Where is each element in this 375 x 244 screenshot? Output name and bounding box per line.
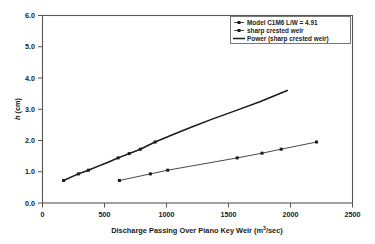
chart-legend: Model C1M6 L/W = 4.91 sharp crested weir… xyxy=(231,17,351,44)
legend-entry-power-trend[interactable]: Power (sharp crested weir) xyxy=(233,35,329,43)
y-tick-label: 3.0 xyxy=(25,105,35,114)
y-tick-label: 6.0 xyxy=(25,11,35,20)
x-tick-label: 2000 xyxy=(283,210,299,219)
x-axis-title-main: Discharge Passing Over Piano Key Weir (m xyxy=(111,226,263,235)
y-axis-title-unit: (cm) xyxy=(13,97,22,115)
y-tick-label: 1.0 xyxy=(25,167,35,176)
y-axis-title: h (cm) xyxy=(13,97,22,120)
legend-entry-model-c1m6[interactable]: Model C1M6 L/W = 4.91 xyxy=(234,19,318,26)
svg-text:h (cm): h (cm) xyxy=(13,97,22,120)
y-tick-label: 4.0 xyxy=(25,74,35,83)
y-tick-label: 2.0 xyxy=(25,136,35,145)
y-tick-label: 0.0 xyxy=(25,199,35,208)
x-tick-label: 2500 xyxy=(345,210,361,219)
y-axis-ticks xyxy=(38,16,43,204)
legend-label: Model C1M6 L/W = 4.91 xyxy=(247,19,318,26)
chart-figure: 0.0 1.0 2.0 3.0 4.0 5.0 6.0 0 500 1000 1… xyxy=(0,0,375,244)
legend-marker-swatch xyxy=(238,21,241,24)
y-tick-label: 5.0 xyxy=(25,42,35,51)
x-tick-label: 1500 xyxy=(221,210,237,219)
legend-marker-swatch xyxy=(238,29,241,32)
x-axis-title: Discharge Passing Over Piano Key Weir (m… xyxy=(111,225,283,235)
discharge-vs-head-chart: 0.0 1.0 2.0 3.0 4.0 5.0 6.0 0 500 1000 1… xyxy=(0,0,375,244)
legend-label: sharp crested weir xyxy=(247,27,304,35)
x-axis-tick-labels: 0 500 1000 1500 2000 2500 xyxy=(41,210,361,219)
x-tick-label: 500 xyxy=(99,210,111,219)
legend-label: Power (sharp crested weir) xyxy=(247,35,329,43)
x-tick-label: 1000 xyxy=(159,210,175,219)
y-axis-tick-labels: 0.0 1.0 2.0 3.0 4.0 5.0 6.0 xyxy=(25,11,35,208)
x-axis-ticks xyxy=(43,203,353,208)
x-tick-label: 0 xyxy=(41,210,45,219)
x-axis-title-tail: /sec) xyxy=(266,226,283,235)
